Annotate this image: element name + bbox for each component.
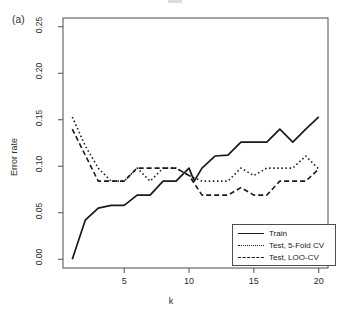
legend-line-solid-icon (238, 229, 264, 238)
legend: Train Test, 5-Fold CV Test, LOO-CV (232, 224, 336, 266)
legend-label-5fold: Test, 5-Fold CV (269, 241, 324, 250)
legend-label-loocv: Test, LOO-CV (269, 253, 319, 262)
x-axis-ticks (124, 268, 319, 273)
legend-label-train: Train (269, 229, 287, 238)
plot-canvas (0, 0, 342, 314)
legend-item-5fold: Test, 5-Fold CV (238, 240, 324, 251)
legend-item-loocv: Test, LOO-CV (238, 252, 319, 263)
legend-line-dotted-icon (238, 241, 264, 250)
y-axis-ticks (58, 27, 63, 260)
series-line-dotted (72, 117, 318, 181)
figure-panel-a: (a) Error rate k 0.000.050.100.150.200.2… (0, 0, 342, 314)
legend-line-dashed-icon (238, 253, 264, 262)
series-line-dashed (72, 129, 318, 195)
legend-item-train: Train (238, 228, 287, 239)
